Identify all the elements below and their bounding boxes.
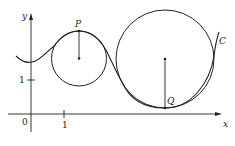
x-tick-label: 1 <box>62 120 68 130</box>
y-tick-label: 1 <box>19 75 25 85</box>
point-p-label: P <box>74 19 82 29</box>
center-p-dot <box>78 57 81 60</box>
y-axis-label: y <box>21 11 28 21</box>
point-q-label: Q <box>167 96 175 106</box>
x-axis <box>8 112 222 116</box>
x-axis-label: x <box>223 119 228 129</box>
point-p-dot <box>78 30 81 33</box>
curvature-diagram: y x 0 1 1 P Q C <box>0 0 235 146</box>
curve-c-label: C <box>219 36 226 46</box>
center-q-dot <box>164 58 167 61</box>
point-q-dot <box>164 107 167 110</box>
x-axis-arrow-icon <box>215 112 222 116</box>
origin-label: 0 <box>22 117 28 127</box>
y-axis-arrow-icon <box>29 13 33 20</box>
